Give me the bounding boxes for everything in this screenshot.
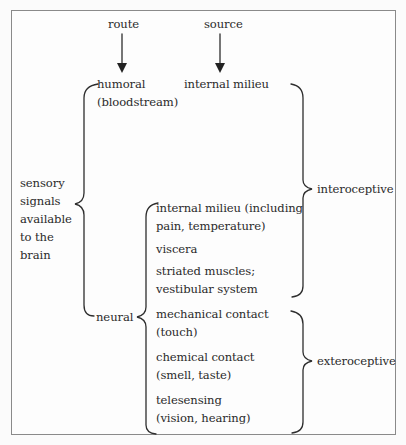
route-header: route xyxy=(108,16,139,32)
source-internal-milieu-l1: internal milieu (including xyxy=(156,200,303,216)
source-striated-l2: vestibular system xyxy=(156,281,258,297)
interoceptive-label: interoceptive xyxy=(317,181,393,197)
source-striated-l1: striated muscles; xyxy=(156,263,255,279)
source-mechanical-l1: mechanical contact xyxy=(156,306,269,322)
source-arrow-icon xyxy=(215,34,225,73)
source-internal-milieu-l2: pain, temperature) xyxy=(156,218,265,234)
exteroceptive-label: exteroceptive xyxy=(317,353,396,369)
source-header: source xyxy=(204,16,243,32)
humoral-sub: (bloodstream) xyxy=(97,94,178,110)
root-brace-icon xyxy=(75,84,98,316)
exteroceptive-brace-icon xyxy=(291,311,312,433)
neural-brace-icon xyxy=(137,203,158,434)
source-chemical-l1: chemical contact xyxy=(156,349,254,365)
humoral-source: internal milieu xyxy=(184,76,269,92)
neural-label: neural xyxy=(96,309,133,325)
source-telesensing-l1: telesensing xyxy=(156,392,222,408)
source-mechanical-l2: (touch) xyxy=(156,324,197,340)
source-telesensing-l2: (vision, hearing) xyxy=(156,410,250,426)
source-viscera: viscera xyxy=(156,241,197,257)
interoceptive-brace-icon xyxy=(291,84,312,297)
source-chemical-l2: (smell, taste) xyxy=(156,367,231,383)
humoral-label: humoral xyxy=(97,76,145,92)
route-arrow-icon xyxy=(117,34,127,73)
